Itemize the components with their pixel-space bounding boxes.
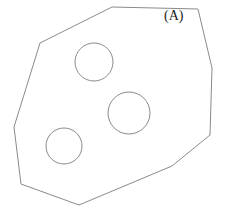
diagram-figure [0, 0, 225, 214]
figure-label: (A) [164, 8, 183, 24]
circle-3 [46, 128, 82, 164]
circle-2 [108, 92, 150, 134]
diagram-canvas: (A) [0, 0, 225, 214]
circle-group [46, 43, 150, 164]
circle-1 [75, 43, 113, 81]
outline-polygon [14, 7, 212, 205]
